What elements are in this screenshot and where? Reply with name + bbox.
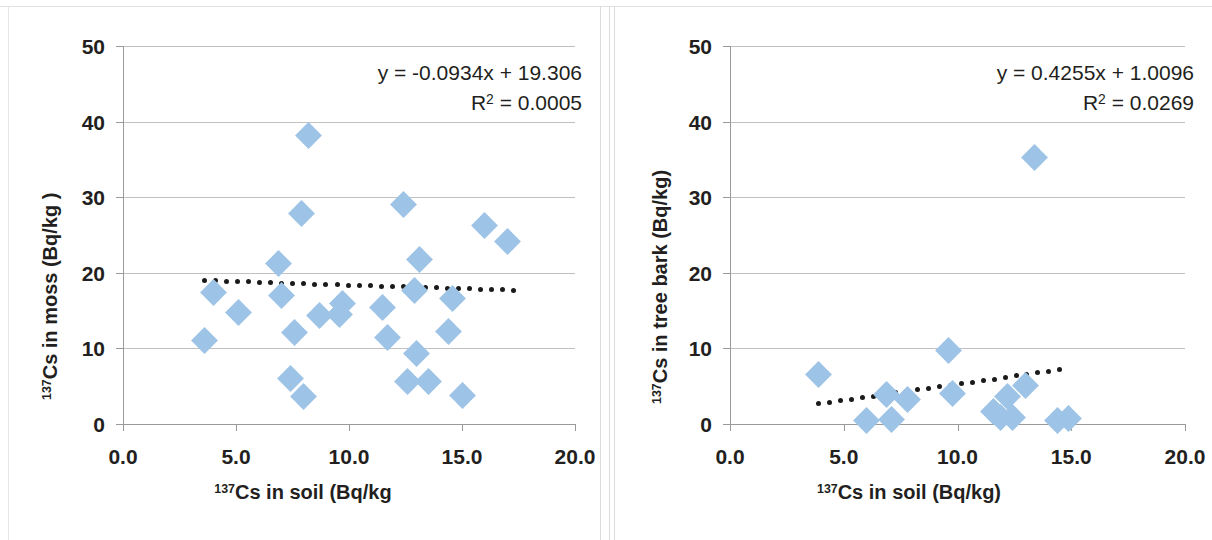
trendline-dot-bark — [1046, 369, 1051, 374]
y-tick-moss-0 — [116, 424, 123, 425]
data-point-moss — [494, 228, 521, 255]
x-axis-title-text-moss: Cs in soil (Bq/kg — [235, 481, 392, 503]
y-axis-title-tree-bark: 137Cs in tree bark (Bq/kg) — [650, 170, 670, 404]
trendline-dot-moss — [467, 286, 472, 291]
r-squared-line-moss: R2 = 0.0005 — [378, 88, 582, 118]
trendline-dot-bark — [937, 384, 942, 389]
y-axis-title-text-moss: Cs in moss (Bq/kg ) — [39, 193, 61, 380]
trendline-dot-moss — [323, 282, 328, 287]
y-axis-title-superscript-tree-bark: 137 — [650, 383, 664, 404]
trendline-dot-bark — [1057, 367, 1062, 372]
trendline-dot-bark — [816, 401, 821, 406]
regression-annotation-tree-bark: y = 0.4255x + 1.0096 R2 = 0.0269 — [997, 58, 1194, 119]
x-tick-moss-20 — [575, 424, 576, 431]
y-tick-bark-40 — [723, 122, 730, 123]
trendline-dot-bark — [827, 400, 832, 405]
gridline-bark-20 — [730, 273, 1185, 274]
y-tick-label-moss-50: 50 — [43, 36, 105, 57]
data-point-moss — [281, 319, 308, 346]
x-tick-label-bark-0: 0.0 — [680, 446, 780, 467]
trendline-dot-moss — [290, 281, 295, 286]
x-axis-title-tree-bark: 137Cs in soil (Bq/kg) — [606, 482, 1212, 502]
y-tick-bark-50 — [723, 46, 730, 47]
x-axis-title-text-tree-bark: Cs in soil (Bq/kg) — [838, 481, 1001, 503]
y-tick-bark-10 — [723, 348, 730, 349]
x-tick-label-bark-20: 20.0 — [1135, 446, 1212, 467]
x-tick-label-moss-15: 15.0 — [412, 446, 512, 467]
data-point-moss — [440, 285, 467, 312]
trendline-dot-bark — [860, 395, 865, 400]
data-point-moss — [374, 324, 401, 351]
trendline-dot-moss — [335, 282, 340, 287]
equation-line-tree-bark: y = 0.4255x + 1.0096 — [997, 58, 1194, 88]
panel-moss: 010203040500.05.010.015.020.0 y = -0.093… — [0, 0, 606, 540]
r-squared-label-moss: R — [471, 91, 486, 114]
data-point-moss — [403, 340, 430, 367]
data-point-moss — [268, 282, 295, 309]
figure-root: 010203040500.05.010.015.020.0 y = -0.093… — [0, 0, 1212, 540]
x-tick-moss-10 — [349, 424, 350, 431]
gridline-moss-50 — [123, 46, 575, 47]
gridline-moss-30 — [123, 197, 575, 198]
x-tick-bark-5 — [844, 424, 845, 431]
data-point-bark — [1021, 144, 1048, 171]
gridline-bark-50 — [730, 46, 1185, 47]
gridline-bark-40 — [730, 122, 1185, 123]
y-tick-label-moss-40: 40 — [43, 112, 105, 133]
data-point-moss — [225, 299, 252, 326]
trendline-dot-moss — [379, 284, 384, 289]
trendline-dot-bark — [926, 386, 931, 391]
y-tick-moss-40 — [116, 122, 123, 123]
y-tick-label-bark-50: 50 — [650, 36, 712, 57]
data-point-bark — [853, 407, 880, 434]
data-point-moss — [191, 327, 218, 354]
data-point-moss — [471, 212, 498, 239]
data-point-bark — [874, 381, 901, 408]
r-squared-value-tree-bark: = 0.0269 — [1106, 91, 1194, 114]
data-point-bark — [805, 361, 832, 388]
r-squared-value-moss: = 0.0005 — [494, 91, 582, 114]
y-axis-line-moss — [123, 46, 124, 424]
r-squared-line-tree-bark: R2 = 0.0269 — [997, 88, 1194, 118]
gridline-bark-30 — [730, 197, 1185, 198]
r-squared-exponent-moss: 2 — [486, 91, 494, 107]
trendline-dot-moss — [500, 287, 505, 292]
trendline-dot-bark — [849, 397, 854, 402]
r-squared-label-tree-bark: R — [1083, 91, 1098, 114]
y-tick-moss-20 — [116, 273, 123, 274]
trendline-dot-moss — [368, 283, 373, 288]
x-tick-label-moss-10: 10.0 — [299, 446, 399, 467]
data-point-moss — [406, 246, 433, 273]
regression-annotation-moss: y = -0.0934x + 19.306 R2 = 0.0005 — [378, 58, 582, 119]
trendline-dot-bark — [1035, 370, 1040, 375]
trendline-dot-bark — [981, 378, 986, 383]
trendline-dot-moss — [312, 282, 317, 287]
trendline-dot-moss — [268, 280, 273, 285]
trendline-dot-moss — [434, 285, 439, 290]
x-axis-title-moss: 137Cs in soil (Bq/kg — [0, 482, 606, 502]
gridline-moss-40 — [123, 122, 575, 123]
data-point-moss — [369, 294, 396, 321]
trendline-dot-bark — [1014, 373, 1019, 378]
trendline-dot-moss — [478, 287, 483, 292]
y-tick-moss-30 — [116, 197, 123, 198]
trendline-dot-bark — [970, 380, 975, 385]
trendline-dot-moss — [246, 279, 251, 284]
x-tick-label-moss-0: 0.0 — [73, 446, 173, 467]
x-tick-label-bark-15: 15.0 — [1021, 446, 1121, 467]
trendline-dot-moss — [390, 284, 395, 289]
y-axis-title-moss: 137Cs in moss (Bq/kg ) — [40, 193, 60, 400]
trendline-dot-bark — [838, 398, 843, 403]
data-point-bark — [878, 406, 905, 433]
data-point-moss — [415, 368, 442, 395]
trendline-dot-moss — [346, 283, 351, 288]
trendline-dot-moss — [235, 279, 240, 284]
y-tick-moss-50 — [116, 46, 123, 47]
y-tick-label-moss-0: 0 — [43, 414, 105, 435]
trendline-dot-bark — [1003, 375, 1008, 380]
x-axis-title-superscript-moss: 137 — [214, 482, 235, 496]
data-point-moss — [435, 318, 462, 345]
gridline-moss-20 — [123, 273, 575, 274]
trendline-dot-moss — [511, 288, 516, 293]
trendline-dot-moss — [301, 281, 306, 286]
